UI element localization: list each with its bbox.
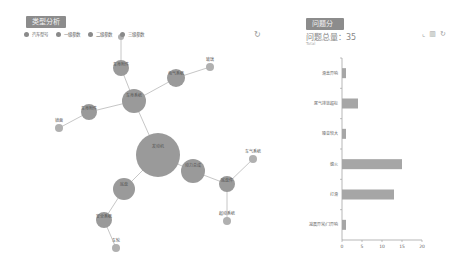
- graph-node[interactable]: [249, 155, 257, 163]
- category-label: 噪音较大: [322, 130, 338, 136]
- legend-item-level2[interactable]: 二级参数: [88, 31, 112, 37]
- issue-analysis-panel: 05101520滑盖异响尾气排放超标噪音较大熄火打滑减震异常/门异响 问题分析 …: [270, 0, 474, 264]
- legend-label: 一级参数: [64, 31, 80, 37]
- x-tick-label: 15: [399, 244, 405, 249]
- category-label: 减震异常/门异响: [309, 221, 338, 227]
- category-label: 打滑: [330, 191, 338, 197]
- graph-node-label: 车气系统: [245, 148, 261, 154]
- graph-node-label: 车轮: [112, 237, 120, 243]
- x-tick-label: 10: [379, 244, 385, 249]
- bar-chart-icon[interactable]: ▥: [429, 30, 436, 38]
- graph-node-label: 电气系统: [168, 70, 184, 76]
- bar[interactable]: [342, 129, 346, 139]
- refresh-icon[interactable]: ↻: [440, 30, 446, 38]
- bar[interactable]: [342, 220, 346, 230]
- panel-title: 问题分析: [306, 18, 344, 30]
- line-chart-icon[interactable]: ⌞: [422, 30, 425, 38]
- graph-node-label: 底盘件: [221, 177, 233, 183]
- legend-label: 二级参数: [96, 31, 112, 37]
- panel-title: 类型分析: [26, 16, 66, 28]
- type-analysis-panel: 发动机车身系统车身附件电气系统玻璃车身附件镜面动力总成底盘件车气系统起动系统底盘…: [0, 0, 270, 264]
- graph-node-label: 玻璃: [206, 56, 214, 62]
- graph-node-label: 起动系统: [219, 210, 235, 216]
- legend-dot-icon: [24, 32, 29, 37]
- legend-dot-icon: [120, 32, 125, 37]
- legend-label: 三级参数: [128, 31, 144, 37]
- legend-item-model[interactable]: 汽车型号: [24, 31, 48, 37]
- x-tick-label: 0: [341, 244, 344, 249]
- graph-node-label: 镜面: [55, 117, 63, 123]
- network-graph[interactable]: 发动机车身系统车身附件电气系统玻璃车身附件镜面动力总成底盘件车气系统起动系统底盘…: [0, 0, 270, 264]
- legend-label: 汽车型号: [32, 31, 48, 37]
- legend-dot-icon: [56, 32, 61, 37]
- graph-node-label: 车身附件: [81, 105, 97, 111]
- bar-chart: 05101520滑盖异响尾气排放超标噪音较大熄火打滑减震异常/门异响: [270, 0, 474, 264]
- graph-node-label: 动力总成: [185, 162, 201, 168]
- bar[interactable]: [342, 68, 346, 78]
- bar[interactable]: [342, 99, 358, 109]
- graph-node[interactable]: [112, 244, 120, 252]
- refresh-icon[interactable]: ↻: [254, 31, 261, 39]
- x-tick-label: 20: [419, 244, 425, 249]
- category-label: 滑盖异响: [322, 70, 338, 76]
- x-tick-label: 5: [361, 244, 364, 249]
- graph-node[interactable]: [136, 133, 180, 177]
- bar[interactable]: [342, 190, 394, 200]
- graph-legend: 汽车型号 一级参数 二级参数 三级参数: [24, 31, 144, 37]
- category-label: 熄火: [330, 161, 338, 167]
- graph-node[interactable]: [223, 217, 231, 225]
- graph-node-label: 底盘: [120, 181, 128, 187]
- graph-node-label: 车身系统: [126, 92, 142, 98]
- legend-item-level1[interactable]: 一级参数: [56, 31, 80, 37]
- graph-node-label: 发动机: [152, 143, 164, 149]
- graph-node-label: 安全系统: [96, 213, 112, 219]
- bar[interactable]: [342, 159, 402, 169]
- legend-item-level3[interactable]: 三级参数: [120, 31, 144, 37]
- issue-total-subtitle: Total: [306, 41, 315, 46]
- chart-toolbar: ⌞ ▥ ↻: [422, 30, 446, 38]
- graph-node-label: 车身附件: [113, 61, 129, 67]
- legend-dot-icon: [88, 32, 93, 37]
- graph-node[interactable]: [55, 124, 63, 132]
- category-label: 尾气排放超标: [314, 100, 338, 106]
- graph-node[interactable]: [206, 63, 214, 71]
